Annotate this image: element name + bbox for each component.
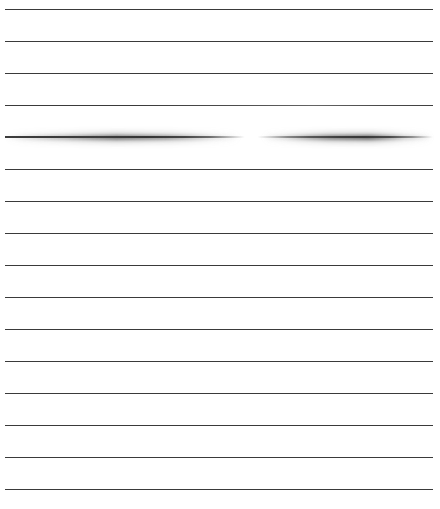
smudge-halo-outer: [5, 133, 433, 142]
rule-line-14: [5, 425, 433, 426]
rule-line-7: [5, 201, 433, 202]
rule-line-9: [5, 265, 433, 266]
ruled-lines-canvas: [0, 0, 440, 509]
rule-line-15: [5, 457, 433, 458]
rule-line-2: [5, 41, 433, 42]
rule-line-10: [5, 297, 433, 298]
rule-line-3: [5, 73, 433, 74]
rule-line-6: [5, 169, 433, 170]
rule-line-13: [5, 393, 433, 394]
rule-line-1: [5, 9, 433, 10]
rule-line-4: [5, 105, 433, 106]
rule-line-12: [5, 361, 433, 362]
rule-line-11: [5, 329, 433, 330]
rule-line-16: [5, 489, 433, 490]
smudge-halo-inner: [5, 135, 433, 140]
rule-line-5-smudge: [5, 132, 433, 143]
smudge-core-stroke: [5, 136, 433, 138]
rule-line-8: [5, 233, 433, 234]
